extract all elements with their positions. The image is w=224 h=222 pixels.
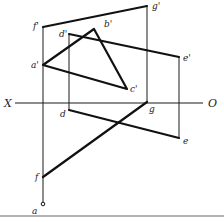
line-d-prime-e-prime (69, 34, 179, 57)
line-d-e (69, 110, 179, 138)
label-d-prime: d' (59, 29, 67, 39)
label-f-prime: f' (32, 21, 39, 31)
label-e-prime: e' (183, 53, 191, 63)
line-f-g (43, 102, 147, 177)
point-a-marker (41, 202, 45, 206)
label-d: d (60, 109, 66, 119)
label-g-prime: g' (152, 1, 160, 11)
label-f: f (34, 172, 40, 182)
projection-diagram: X O f' g' a' b' c' d' e' d e g f a (0, 0, 224, 222)
label-c-prime: c' (130, 84, 138, 94)
label-g: g (149, 104, 155, 114)
label-a-prime: a' (31, 60, 39, 70)
label-b-prime: b' (104, 19, 112, 29)
axis-label-x: X (3, 97, 13, 110)
label-e: e (183, 136, 188, 146)
axis-label-o: O (208, 97, 217, 110)
line-f-prime-g-prime (43, 6, 147, 27)
label-a: a (32, 206, 37, 216)
